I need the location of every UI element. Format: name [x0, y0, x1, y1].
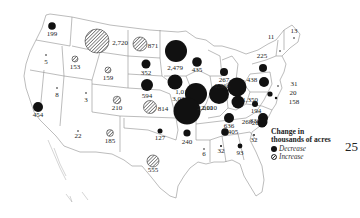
legend-title-line2: thousands of acres	[271, 136, 351, 144]
decrease-marker-wa	[48, 22, 56, 30]
marker-label-ga: 93	[237, 149, 245, 157]
marker-label-ok: 127	[155, 134, 166, 142]
decrease-marker-nv	[56, 87, 58, 89]
legend-decrease-label: Decrease	[279, 145, 306, 153]
legend-decrease: Decrease	[271, 145, 351, 153]
marker-label-de: 158	[289, 98, 300, 106]
marker-label-wi: 435	[192, 66, 203, 74]
decrease-marker-ar	[183, 129, 190, 136]
marker-label-wa: 199	[47, 30, 58, 38]
marker-label-mn: 2,479	[167, 64, 183, 72]
marker-label-la: 6	[202, 150, 206, 158]
increase-marker-id	[72, 56, 78, 62]
marker-label-nm: 185	[105, 137, 116, 145]
marker-label-oh: 1,366	[214, 82, 230, 90]
mexico-outline	[48, 140, 88, 202]
marker-label-ny: 225	[257, 52, 268, 60]
increase-marker-nm	[107, 130, 114, 137]
decrease-marker-ny	[259, 64, 267, 72]
decrease-marker-sd	[142, 60, 151, 69]
marker-label-ut: 3	[84, 96, 88, 104]
marker-label-vt: 11	[268, 33, 275, 41]
marker-label-ca: 454	[33, 111, 44, 119]
marker-label-ks: 814	[158, 105, 169, 113]
decrease-marker-or	[45, 54, 47, 56]
legend-increase: Increase	[271, 153, 351, 161]
marker-layer: 19951532,7208712,479435159352832105941,0…	[33, 22, 300, 174]
marker-label-pa: 438	[247, 76, 258, 84]
hatched-circle-icon	[271, 154, 277, 160]
marker-label-sd: 352	[141, 69, 152, 77]
marker-label-nv: 8	[55, 91, 59, 99]
decrease-marker-oh	[228, 78, 247, 97]
decrease-marker-de	[275, 97, 277, 99]
decrease-marker-ok	[158, 129, 163, 134]
decrease-marker-sc2	[258, 119, 267, 128]
increase-marker-co	[113, 96, 121, 104]
page-number: 25	[345, 139, 358, 155]
decrease-marker-md	[267, 91, 272, 96]
marker-label-nj: 31	[291, 80, 299, 88]
legend-increase-label: Increase	[279, 153, 303, 161]
filled-circle-icon	[271, 146, 277, 152]
marker-label-wv: 194	[251, 107, 262, 115]
legend: Change in thousands of acres Decrease In…	[271, 128, 351, 162]
marker-label-wy: 159	[103, 74, 114, 82]
marker-label-ar: 240	[182, 138, 193, 146]
marker-label-tx: 555	[148, 166, 159, 174]
marker-label-az: 22	[75, 132, 83, 140]
marker-label-nd: 871	[148, 42, 159, 50]
marker-label-sc: 32	[251, 136, 259, 144]
increase-marker-mt	[85, 29, 109, 53]
marker-label-co: 210	[112, 104, 123, 112]
decrease-marker-ut	[85, 92, 87, 94]
marker-label-ne: 594	[142, 92, 153, 100]
increase-marker-nd	[133, 37, 147, 51]
decrease-marker-ne	[141, 79, 153, 91]
marker-label-id: 153	[70, 63, 81, 71]
marker-label-mo: 2,010	[197, 104, 213, 112]
decrease-marker-mn	[165, 40, 187, 62]
marker-label-md: 20	[290, 89, 298, 97]
increase-marker-wy	[105, 67, 111, 73]
decrease-marker-pa	[259, 77, 269, 87]
decrease-marker-vt	[279, 50, 281, 52]
marker-label-al: 405	[228, 128, 239, 136]
decrease-marker-me	[293, 37, 295, 39]
marker-label-or: 5	[44, 58, 48, 66]
marker-label-me: 13	[291, 27, 299, 35]
marker-label-sc2: 268	[242, 118, 253, 126]
marker-label-ms: 32	[218, 147, 226, 155]
decrease-marker-mi	[220, 68, 228, 76]
decrease-marker-ga	[238, 144, 243, 149]
increase-marker-ks	[144, 101, 157, 114]
us-map: 19951532,7208712,479435159352832105941,0…	[0, 0, 360, 218]
decrease-marker-nj	[277, 85, 279, 87]
marker-label-mt: 2,720	[112, 39, 128, 47]
